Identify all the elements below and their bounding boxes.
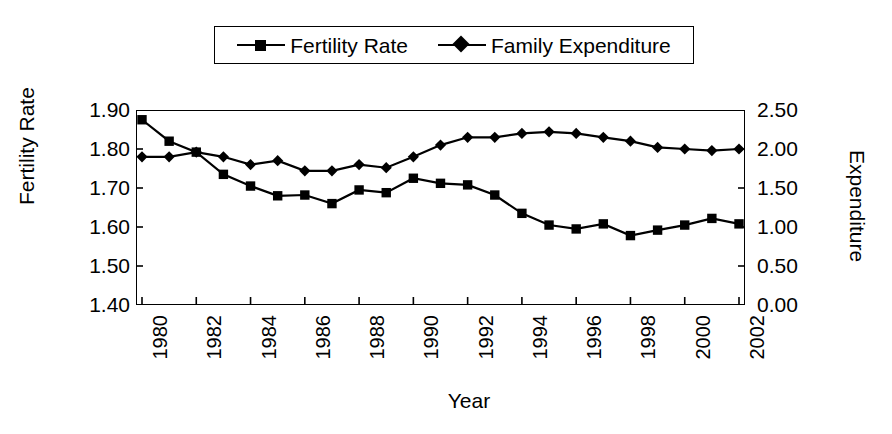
x-axis-title-text: Year (402, 389, 490, 412)
x-axis-tick-label: 1986 (313, 315, 333, 360)
y-axis-right-title: Expenditure (847, 150, 868, 262)
x-axis-tick-label: 1988 (367, 315, 387, 360)
x-axis-ticks: 1980198219841986198819901992199419961998… (0, 0, 892, 434)
y-axis-left-title: Fertility Rate (16, 87, 37, 205)
chart-figure: Fertility Rate Family Expenditure 1.901.… (0, 0, 892, 434)
x-axis-tick-label: 2000 (693, 315, 713, 360)
x-axis-tick-label: 1998 (638, 315, 658, 360)
x-axis-tick-label: 1996 (584, 315, 604, 360)
x-axis-tick-label: 1994 (530, 315, 550, 360)
x-axis-tick-label: 1982 (204, 315, 224, 360)
x-axis-tick-label: 1984 (259, 315, 279, 360)
x-axis-tick-label: 1992 (476, 315, 496, 360)
x-axis-tick-label: 1990 (421, 315, 441, 360)
x-axis-tick-label: 2002 (747, 315, 767, 360)
x-axis-tick-label: 1980 (150, 315, 170, 360)
x-axis-title: Year (0, 390, 892, 411)
